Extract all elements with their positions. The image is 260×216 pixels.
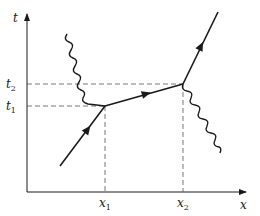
x1-label: x1	[99, 196, 111, 212]
incoming-photon-wavy-line	[65, 34, 105, 106]
x2-label: x2	[177, 196, 189, 212]
t-axis-label: t	[13, 11, 18, 25]
worldline-segment-1	[60, 106, 105, 166]
outgoing-photon-wavy-line	[183, 84, 221, 153]
particle-worldline	[60, 12, 218, 166]
direction-arrows	[82, 40, 207, 135]
arrow-icon	[195, 40, 206, 52]
t2-label: t2	[6, 77, 16, 93]
t1-label: t1	[6, 99, 16, 115]
x-axis-label: x	[240, 198, 247, 212]
spacetime-diagram: t x t2 t1 x1 x2	[0, 0, 260, 216]
dashed-guides	[27, 84, 183, 192]
